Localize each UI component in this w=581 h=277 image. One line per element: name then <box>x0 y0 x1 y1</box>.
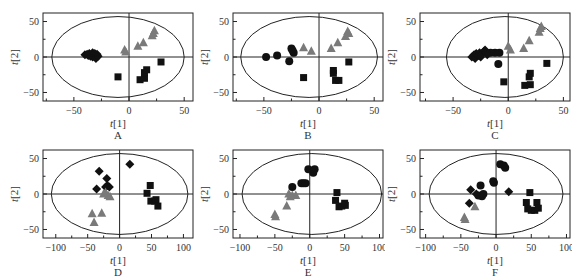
series-triangle <box>88 188 115 226</box>
x-axis-label: t[1] <box>110 117 126 129</box>
circle-marker <box>289 47 297 55</box>
y-tick-label: 0 <box>224 189 229 200</box>
circle-marker <box>302 179 310 187</box>
square-marker <box>543 60 550 67</box>
series-square <box>332 189 349 210</box>
x-tick-label: −100 <box>45 242 66 253</box>
triangle-marker <box>333 38 342 47</box>
square-marker <box>523 199 530 206</box>
series-square <box>300 58 352 83</box>
square-marker <box>158 58 165 65</box>
panel-label: E <box>305 266 312 277</box>
y-tick-label: 50 <box>406 153 416 164</box>
panel-d: −100−50050100−50050t[1]t[2]D <box>0 137 195 277</box>
y-axis-label: t[2] <box>385 49 397 65</box>
x-axis-label: t[1] <box>110 254 126 266</box>
circle-marker <box>490 179 498 187</box>
series-square <box>144 182 162 210</box>
circle-marker <box>311 165 319 173</box>
diamond-marker <box>465 199 474 208</box>
square-marker <box>144 190 151 197</box>
panel-f: −100−50050100−50050t[1]t[2]F <box>377 137 572 277</box>
pca-score-plot-figure: −50050−50050t[1]t[2]A −50050−50050t[1]t[… <box>0 0 581 277</box>
panel-b: −50050−50050t[1]t[2]B <box>190 0 385 138</box>
x-tick-label: −50 <box>445 105 461 116</box>
triangle-marker <box>90 217 99 226</box>
y-tick-label: −50 <box>23 224 39 235</box>
x-axis-label: t[1] <box>487 117 503 129</box>
diamond-marker <box>504 187 513 196</box>
triangle-marker <box>139 38 148 47</box>
circle-marker <box>501 164 509 172</box>
panel-e: −100−50050100−50050t[1]t[2]E <box>190 137 385 277</box>
x-tick-label: −50 <box>453 242 469 253</box>
square-marker <box>500 78 507 85</box>
circle-marker <box>262 53 270 61</box>
series-circle <box>288 165 318 191</box>
triangle-marker <box>299 43 308 52</box>
scatter-chart: −50050−50050t[1]t[2]C <box>377 0 572 140</box>
y-tick-label: 0 <box>34 52 39 63</box>
y-axis-label: t[2] <box>8 49 20 65</box>
x-tick-label: 0 <box>307 242 312 253</box>
y-tick-label: −50 <box>400 87 416 98</box>
circle-marker <box>273 52 281 60</box>
scatter-chart: −50050−50050t[1]t[2]B <box>190 0 385 140</box>
y-tick-label: 0 <box>34 189 39 200</box>
y-axis-label: t[2] <box>8 186 20 202</box>
square-marker <box>535 205 542 212</box>
y-tick-label: 0 <box>411 52 416 63</box>
series-square <box>523 189 542 214</box>
x-axis-label: t[1] <box>487 254 503 266</box>
square-marker <box>333 189 340 196</box>
panel-label: D <box>114 266 122 277</box>
triangle-marker <box>88 209 97 218</box>
triangle-marker <box>97 208 106 217</box>
x-tick-label: 0 <box>506 105 511 116</box>
x-tick-label: 50 <box>340 242 350 253</box>
square-marker <box>154 203 161 210</box>
square-marker <box>147 182 154 189</box>
x-tick-label: 0 <box>494 242 499 253</box>
x-tick-label: −50 <box>256 105 272 116</box>
circle-marker <box>477 181 485 189</box>
y-tick-label: 50 <box>29 153 39 164</box>
x-tick-label: 50 <box>558 105 568 116</box>
diamond-marker <box>95 167 104 176</box>
panel-c: −50050−50050t[1]t[2]C <box>377 0 572 138</box>
x-tick-label: −50 <box>66 105 82 116</box>
triangle-marker <box>525 36 534 45</box>
square-marker <box>332 197 339 204</box>
circle-marker <box>494 60 502 68</box>
square-marker <box>527 70 534 77</box>
x-tick-label: 0 <box>127 105 132 116</box>
x-tick-label: −100 <box>415 242 436 253</box>
x-tick-label: 50 <box>147 242 157 253</box>
series-diamond <box>465 185 513 207</box>
x-tick-label: −100 <box>230 242 251 253</box>
series-triangle <box>120 26 159 56</box>
y-tick-label: −50 <box>213 224 229 235</box>
square-marker <box>115 73 122 80</box>
y-tick-label: 50 <box>406 16 416 27</box>
x-tick-label: −50 <box>267 242 283 253</box>
y-tick-label: −50 <box>400 224 416 235</box>
y-tick-label: −50 <box>213 87 229 98</box>
scatter-chart: −100−50050100−50050t[1]t[2]E <box>190 137 385 277</box>
y-tick-label: −50 <box>23 87 39 98</box>
x-tick-label: 100 <box>559 242 572 253</box>
series-triangle <box>504 21 546 53</box>
series-diamond <box>467 45 491 63</box>
square-marker <box>342 202 349 209</box>
square-marker <box>527 81 534 88</box>
square-marker <box>152 196 159 203</box>
scatter-chart: −100−50050100−50050t[1]t[2]F <box>377 137 572 277</box>
square-marker <box>335 77 342 84</box>
scatter-chart: −50050−50050t[1]t[2]A <box>0 0 195 140</box>
x-axis-label: t[1] <box>300 117 316 129</box>
x-tick-label: 50 <box>179 105 189 116</box>
triangle-marker <box>307 46 316 55</box>
y-tick-label: 50 <box>219 153 229 164</box>
square-marker <box>345 58 352 65</box>
y-tick-label: 50 <box>29 16 39 27</box>
